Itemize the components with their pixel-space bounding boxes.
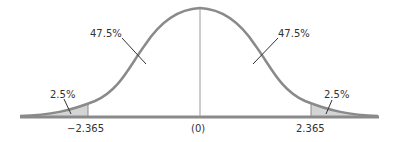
right-tick-label: 2.365: [296, 124, 325, 134]
left-tick-label: −2.365: [67, 124, 104, 134]
left-tail-label: 2.5%: [50, 90, 75, 100]
right-tail-label: 2.5%: [324, 90, 349, 100]
right-center-label: 47.5%: [278, 29, 310, 39]
center-tick-label: (0): [191, 124, 205, 134]
left-center-label: 47.5%: [90, 29, 122, 39]
t-distribution-chart: [0, 0, 399, 142]
